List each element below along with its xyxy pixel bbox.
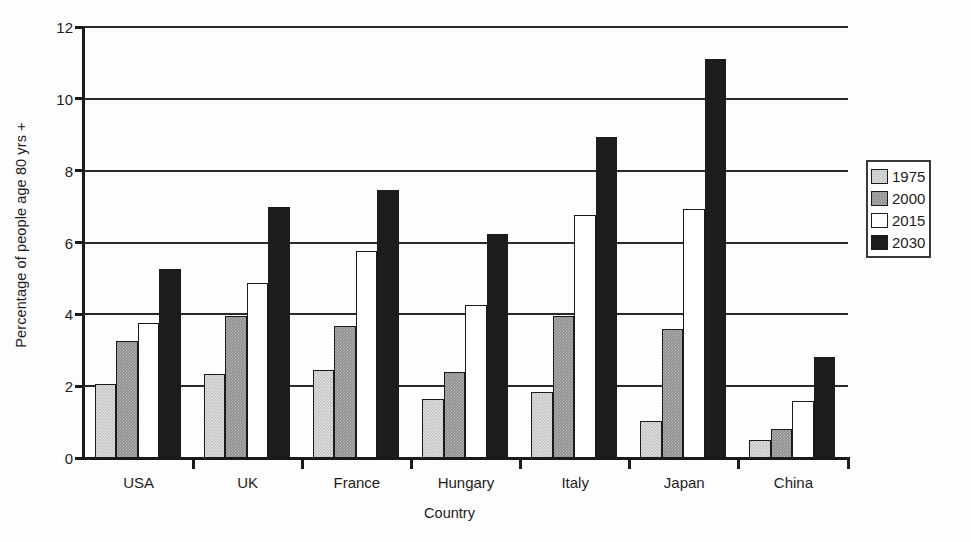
bar: [377, 190, 399, 458]
x-axis-label: Hungary: [411, 474, 520, 491]
plot-area: 024681012: [84, 27, 848, 458]
x-axis-label: France: [302, 474, 411, 491]
y-axis-tick: [75, 385, 84, 388]
bar: [662, 329, 684, 458]
legend-label: 2015: [892, 213, 925, 228]
bar: [465, 305, 487, 458]
y-axis-tick: [75, 241, 84, 244]
legend-label: 1975: [892, 169, 925, 184]
x-axis-label: USA: [84, 474, 193, 491]
bar: [487, 234, 509, 458]
y-axis-tick-label: 4: [65, 306, 73, 323]
x-axis-tick: [301, 459, 304, 469]
bar: [596, 137, 618, 458]
bar: [771, 429, 793, 458]
y-axis-title-text: Percentage of people age 80 yrs +: [13, 122, 29, 347]
x-axis-tick: [192, 459, 195, 469]
bar-group: [95, 27, 181, 458]
y-axis-title: Percentage of people age 80 yrs +: [6, 0, 36, 470]
bar: [95, 384, 117, 458]
bar: [247, 283, 269, 458]
bar: [574, 215, 596, 459]
legend-swatch: [871, 169, 888, 184]
y-axis-tick-label: 10: [56, 90, 73, 107]
legend-label: 2000: [892, 191, 925, 206]
x-axis-tick: [410, 459, 413, 469]
bar: [138, 323, 160, 458]
bar-group: [640, 27, 726, 458]
bar: [268, 207, 290, 458]
legend-label: 2030: [892, 235, 925, 250]
x-axis-label: Italy: [521, 474, 630, 491]
x-axis-label: Japan: [630, 474, 739, 491]
bar: [116, 341, 138, 458]
legend-item: 1975: [871, 165, 925, 187]
x-axis-label: UK: [193, 474, 302, 491]
bar-group: [749, 27, 835, 458]
bar: [640, 421, 662, 458]
bar-group: [422, 27, 508, 458]
y-axis-tick: [75, 457, 84, 460]
bar-group: [204, 27, 290, 458]
y-axis-tick-label: 0: [65, 450, 73, 467]
bar: [814, 357, 836, 458]
y-axis-tick: [75, 97, 84, 100]
x-axis-tick: [628, 459, 631, 469]
x-axis-title: Country: [0, 505, 971, 521]
legend-item: 2000: [871, 187, 925, 209]
y-axis-tick-label: 8: [65, 162, 73, 179]
chart-figure: Percentage of people age 80 yrs + 024681…: [0, 0, 971, 542]
bar: [444, 372, 466, 458]
bar: [792, 401, 814, 458]
legend-swatch: [871, 213, 888, 228]
bar: [553, 316, 575, 458]
y-axis-tick: [75, 26, 84, 29]
x-axis-tick: [737, 459, 740, 469]
chart-legend: 1975200020152030: [866, 160, 931, 258]
bar: [683, 209, 705, 458]
y-axis-tick: [75, 313, 84, 316]
x-axis-tick: [519, 459, 522, 469]
bar: [334, 326, 356, 458]
bar-group: [313, 27, 399, 458]
legend-swatch: [871, 235, 888, 250]
legend-item: 2015: [871, 209, 925, 231]
bar: [749, 440, 771, 458]
y-axis-tick-label: 12: [56, 19, 73, 36]
bar: [313, 370, 335, 458]
x-axis-title-text: Country: [424, 505, 475, 521]
bar: [422, 399, 444, 458]
y-axis-tick-label: 2: [65, 378, 73, 395]
bar-group: [531, 27, 617, 458]
y-axis-tick: [75, 169, 84, 172]
bar: [356, 251, 378, 458]
bar: [531, 392, 553, 458]
x-axis-label: China: [739, 474, 848, 491]
y-axis-tick-label: 6: [65, 234, 73, 251]
legend-item: 2030: [871, 231, 925, 253]
bar: [705, 59, 727, 458]
bar: [204, 374, 226, 458]
x-axis-tick: [847, 459, 850, 469]
bar: [225, 316, 247, 458]
legend-swatch: [871, 191, 888, 206]
bar: [159, 269, 181, 458]
